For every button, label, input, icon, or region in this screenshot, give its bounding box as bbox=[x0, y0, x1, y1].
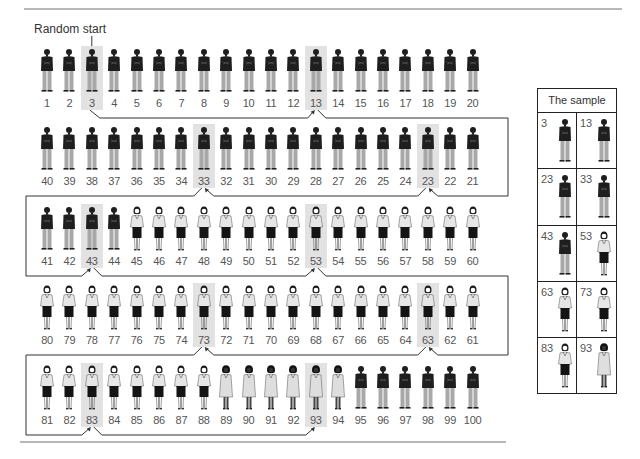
woman-skirt-figure-icon bbox=[84, 365, 100, 411]
man-figure-icon bbox=[129, 48, 145, 94]
sample-number: 73 bbox=[580, 286, 592, 298]
man-figure-icon bbox=[420, 126, 436, 172]
woman-skirt-figure-icon bbox=[375, 285, 391, 331]
sample-cell: 53 bbox=[577, 226, 616, 282]
man-figure-icon bbox=[196, 48, 212, 94]
sample-number: 43 bbox=[541, 230, 553, 242]
sample-grid: 3 13 23 33 bbox=[538, 113, 616, 394]
man-figure-icon bbox=[442, 48, 458, 94]
woman-skirt-figure-icon bbox=[308, 206, 324, 252]
sample-cell: 63 bbox=[538, 282, 577, 338]
person: 100 bbox=[462, 363, 484, 427]
woman-skirt-figure-icon bbox=[196, 285, 212, 331]
man-figure-icon bbox=[39, 48, 55, 94]
woman-skirt-figure-icon bbox=[129, 206, 145, 252]
woman-skirt-figure-icon bbox=[353, 285, 369, 331]
woman-skirt-figure-icon bbox=[151, 206, 167, 252]
sample-cell: 73 bbox=[577, 282, 616, 338]
person-number: 20 bbox=[456, 97, 490, 109]
woman-skirt-figure-icon bbox=[218, 285, 234, 331]
person: 21 bbox=[462, 124, 484, 188]
woman-skirt-figure-icon bbox=[420, 285, 436, 331]
woman-skirt-figure-icon bbox=[173, 285, 189, 331]
sample-cell: 43 bbox=[538, 226, 577, 282]
man-figure-icon bbox=[397, 126, 413, 172]
woman-skirt-figure-icon bbox=[557, 287, 573, 333]
man-figure-icon bbox=[353, 48, 369, 94]
man-figure-icon bbox=[241, 48, 257, 94]
sample-cell: 93 bbox=[577, 338, 616, 394]
man-figure-icon bbox=[375, 365, 391, 411]
sample-number: 93 bbox=[580, 342, 592, 354]
woman-skirt-figure-icon bbox=[557, 343, 573, 389]
person: 60 bbox=[462, 204, 484, 268]
woman-skirt-figure-icon bbox=[84, 285, 100, 331]
man-figure-icon bbox=[263, 48, 279, 94]
man-figure-icon bbox=[420, 365, 436, 411]
man-figure-icon bbox=[39, 206, 55, 252]
man-figure-icon bbox=[442, 126, 458, 172]
woman-skirt-figure-icon bbox=[61, 285, 77, 331]
man-figure-icon bbox=[596, 174, 612, 220]
woman-dress-figure-icon bbox=[330, 365, 346, 411]
woman-skirt-figure-icon bbox=[218, 206, 234, 252]
man-figure-icon bbox=[61, 206, 77, 252]
woman-skirt-figure-icon bbox=[263, 285, 279, 331]
woman-skirt-figure-icon bbox=[353, 206, 369, 252]
man-figure-icon bbox=[173, 48, 189, 94]
woman-skirt-figure-icon bbox=[596, 231, 612, 277]
woman-skirt-figure-icon bbox=[397, 206, 413, 252]
woman-skirt-figure-icon bbox=[596, 287, 612, 333]
woman-skirt-figure-icon bbox=[241, 285, 257, 331]
woman-skirt-figure-icon bbox=[330, 206, 346, 252]
man-figure-icon bbox=[465, 48, 481, 94]
man-figure-icon bbox=[84, 206, 100, 252]
woman-skirt-figure-icon bbox=[61, 365, 77, 411]
man-figure-icon bbox=[465, 365, 481, 411]
man-figure-icon bbox=[241, 126, 257, 172]
man-figure-icon bbox=[308, 48, 324, 94]
sample-number: 53 bbox=[580, 230, 592, 242]
woman-skirt-figure-icon bbox=[285, 206, 301, 252]
man-figure-icon bbox=[557, 174, 573, 220]
man-figure-icon bbox=[151, 48, 167, 94]
man-figure-icon bbox=[308, 126, 324, 172]
sample-number: 13 bbox=[580, 117, 592, 129]
man-figure-icon bbox=[285, 126, 301, 172]
woman-skirt-figure-icon bbox=[106, 285, 122, 331]
sample-number: 33 bbox=[580, 173, 592, 185]
sample-cell: 3 bbox=[538, 113, 577, 169]
woman-skirt-figure-icon bbox=[39, 365, 55, 411]
sample-table-header: The sample bbox=[538, 89, 616, 113]
man-figure-icon bbox=[263, 126, 279, 172]
woman-dress-figure-icon bbox=[596, 343, 612, 389]
woman-dress-figure-icon bbox=[308, 365, 324, 411]
man-figure-icon bbox=[375, 126, 391, 172]
man-figure-icon bbox=[84, 48, 100, 94]
woman-skirt-figure-icon bbox=[241, 206, 257, 252]
man-figure-icon bbox=[218, 48, 234, 94]
man-figure-icon bbox=[106, 48, 122, 94]
woman-skirt-figure-icon bbox=[465, 285, 481, 331]
woman-skirt-figure-icon bbox=[308, 285, 324, 331]
woman-skirt-figure-icon bbox=[129, 365, 145, 411]
sample-number: 3 bbox=[541, 117, 547, 129]
sample-cell: 83 bbox=[538, 338, 577, 394]
man-figure-icon bbox=[397, 365, 413, 411]
man-figure-icon bbox=[596, 118, 612, 164]
man-figure-icon bbox=[557, 118, 573, 164]
man-figure-icon bbox=[420, 48, 436, 94]
man-figure-icon bbox=[129, 126, 145, 172]
person: 61 bbox=[462, 283, 484, 347]
sample-cell: 13 bbox=[577, 113, 616, 169]
sample-table: The sample 3 13 23 33 bbox=[537, 88, 617, 394]
woman-skirt-figure-icon bbox=[173, 365, 189, 411]
woman-dress-figure-icon bbox=[285, 365, 301, 411]
person-number: 60 bbox=[456, 255, 490, 267]
sample-cell: 33 bbox=[577, 169, 616, 225]
man-figure-icon bbox=[61, 48, 77, 94]
woman-dress-figure-icon bbox=[263, 365, 279, 411]
sample-cell: 23 bbox=[538, 169, 577, 225]
man-figure-icon bbox=[84, 126, 100, 172]
sample-number: 23 bbox=[541, 173, 553, 185]
